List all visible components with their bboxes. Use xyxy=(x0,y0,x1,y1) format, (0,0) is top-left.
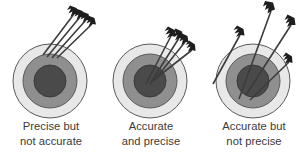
arrow-fletching xyxy=(285,15,296,28)
target-rings-2 xyxy=(113,44,187,118)
panel-accurate-and-precise: Accurate and precise xyxy=(100,0,202,163)
panel-precise-not-accurate: Precise but not accurate xyxy=(0,0,102,163)
target-rings-1 xyxy=(13,44,87,118)
caption-line-1: Precise but xyxy=(0,119,102,134)
target-diagram-2 xyxy=(100,0,202,120)
caption-line-2: not accurate xyxy=(0,134,102,149)
target-diagram-1 xyxy=(0,0,102,120)
accuracy-precision-figure: Precise but not accurate xyxy=(0,0,307,163)
ring-inner-2 xyxy=(134,65,166,97)
caption-1: Precise but not accurate xyxy=(0,119,102,148)
panel-accurate-not-precise: Accurate but not precise xyxy=(203,0,305,163)
caption-2: Accurate and precise xyxy=(100,119,202,148)
caption-line-1: Accurate but xyxy=(203,119,305,134)
arrow-fletching xyxy=(234,26,245,38)
caption-line-1: Accurate xyxy=(100,119,202,134)
target-rings-3 xyxy=(216,44,290,118)
arrow-fletching xyxy=(263,1,275,14)
target-diagram-3 xyxy=(203,0,305,120)
caption-line-2: not precise xyxy=(203,134,305,149)
caption-3: Accurate but not precise xyxy=(203,119,305,148)
caption-line-2: and precise xyxy=(100,134,202,149)
ring-inner-1 xyxy=(34,65,66,97)
